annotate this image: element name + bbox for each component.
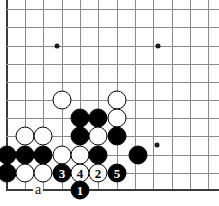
go-board: a34251 <box>0 0 219 206</box>
black-stone <box>0 146 17 165</box>
black-stone <box>16 146 35 165</box>
grid-line-vertical <box>172 0 173 190</box>
move-number: 2 <box>90 165 107 182</box>
grid-line-horizontal <box>6 27 219 28</box>
black-stone <box>89 146 108 165</box>
move-number: 4 <box>72 165 89 182</box>
white-stone <box>71 146 90 165</box>
black-stone <box>0 164 17 183</box>
grid-line-vertical <box>190 0 191 190</box>
white-stone <box>108 91 127 110</box>
move-stone-3: 3 <box>53 164 72 183</box>
move-stone-5: 5 <box>108 164 127 183</box>
move-number: 3 <box>54 165 71 182</box>
black-stone <box>71 127 90 146</box>
black-stone <box>71 109 90 128</box>
grid-line-horizontal <box>6 9 219 10</box>
white-stone <box>53 146 72 165</box>
move-number: 1 <box>72 182 89 199</box>
grid-line-horizontal <box>6 64 219 65</box>
white-stone <box>53 91 72 110</box>
black-stone <box>129 146 148 165</box>
black-stone <box>34 146 53 165</box>
white-stone <box>34 164 53 183</box>
white-stone <box>16 164 35 183</box>
star-point <box>55 44 60 49</box>
white-stone <box>34 127 53 146</box>
move-number: 5 <box>109 165 126 182</box>
black-stone <box>89 109 108 128</box>
move-stone-2: 2 <box>89 164 108 183</box>
grid-line-horizontal <box>6 82 219 83</box>
point-label: a <box>33 183 43 197</box>
black-stone <box>108 127 127 146</box>
white-stone <box>108 109 127 128</box>
white-stone <box>89 127 108 146</box>
grid-line-horizontal <box>6 46 219 47</box>
star-point <box>155 143 160 148</box>
star-point <box>156 44 161 49</box>
white-stone <box>16 127 35 146</box>
grid-line-vertical <box>208 0 209 190</box>
grid-line-vertical <box>153 0 154 190</box>
move-stone-1: 1 <box>71 181 90 200</box>
